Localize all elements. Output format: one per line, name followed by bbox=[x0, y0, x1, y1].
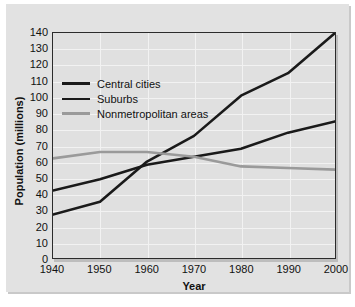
x-tick-label: 1970 bbox=[172, 263, 216, 275]
y-tick-label: 80 bbox=[4, 124, 48, 135]
y-axis-tick-labels: 0102030405060708090100110120130140 bbox=[4, 32, 48, 259]
series-line bbox=[53, 152, 335, 170]
y-tick-label: 90 bbox=[4, 108, 48, 119]
y-tick-label: 50 bbox=[4, 173, 48, 184]
y-tick-label: 20 bbox=[4, 222, 48, 233]
y-axis-title: Population (millions) bbox=[13, 61, 25, 241]
legend-item-label: Suburbs bbox=[97, 93, 138, 105]
x-tick-label: 1990 bbox=[267, 263, 311, 275]
chart-figure: 0102030405060708090100110120130140 Centr… bbox=[0, 0, 355, 307]
legend-item: Suburbs bbox=[62, 91, 208, 106]
legend-item: Central cities bbox=[62, 76, 208, 91]
y-tick-label: 100 bbox=[4, 92, 48, 103]
y-tick-label: 140 bbox=[4, 27, 48, 38]
y-tick-label: 60 bbox=[4, 157, 48, 168]
x-axis-tick-labels: 1940195019601970198019902000 bbox=[52, 263, 336, 279]
legend-item: Nonmetropolitan areas bbox=[62, 106, 208, 121]
x-tick-label: 1940 bbox=[30, 263, 74, 275]
y-tick-label: 30 bbox=[4, 205, 48, 216]
y-tick-label: 130 bbox=[4, 43, 48, 54]
y-tick-label: 10 bbox=[4, 238, 48, 249]
legend-swatch-icon bbox=[62, 82, 90, 85]
series-lines bbox=[53, 33, 335, 258]
legend-swatch-icon bbox=[62, 112, 90, 115]
legend-item-label: Nonmetropolitan areas bbox=[97, 108, 208, 120]
x-tick-label: 1980 bbox=[219, 263, 263, 275]
y-tick-label: 110 bbox=[4, 76, 48, 87]
series-line bbox=[53, 33, 335, 215]
y-tick-label: 70 bbox=[4, 141, 48, 152]
x-tick-label: 1960 bbox=[125, 263, 169, 275]
legend-swatch-icon bbox=[62, 98, 90, 100]
x-axis-title: Year bbox=[52, 280, 336, 292]
y-tick-label: 120 bbox=[4, 59, 48, 70]
y-tick-label: 40 bbox=[4, 189, 48, 200]
x-tick-label: 1950 bbox=[77, 263, 121, 275]
chart-legend: Central citiesSuburbsNonmetropolitan are… bbox=[62, 76, 208, 121]
x-tick-label: 2000 bbox=[314, 263, 355, 275]
plot-area bbox=[52, 32, 336, 259]
legend-item-label: Central cities bbox=[97, 78, 161, 90]
